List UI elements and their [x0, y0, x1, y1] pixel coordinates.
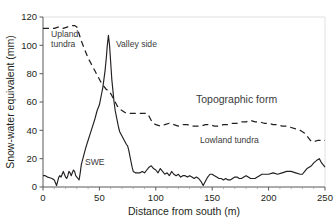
y-tick-label: 0 — [32, 181, 37, 192]
annotation-swe: SWE — [85, 157, 105, 167]
y-tick-label: 120 — [21, 11, 37, 22]
y-tick-label: 80 — [26, 68, 37, 79]
x-tick-label: 0 — [40, 192, 45, 203]
annotation-upland-tundra: Upland — [51, 29, 78, 39]
x-tick-label: 200 — [261, 192, 277, 203]
swe-topography-line-chart: 0 20 40 60 80 100 120 0 50 100 150 200 2… — [0, 0, 335, 221]
y-tick-label: 100 — [21, 40, 37, 51]
y-tick-label: 20 — [26, 153, 37, 164]
x-axis-title: Distance from south (m) — [128, 205, 240, 217]
annotation-topographic-form: Topographic form — [196, 93, 277, 105]
annotation-upland-tundra-line2: tundra — [51, 39, 76, 49]
annotation-lowland-tundra: Lowland tundra — [200, 135, 259, 145]
x-tick-label: 50 — [94, 192, 105, 203]
x-tick-label: 250 — [317, 192, 333, 203]
annotation-valley-side: Valley side — [116, 39, 157, 49]
y-axis-title: Snow-water equivalent (mm) — [4, 35, 16, 169]
chart-figure: 0 20 40 60 80 100 120 0 50 100 150 200 2… — [0, 0, 335, 221]
x-tick-label: 100 — [148, 192, 164, 203]
y-tick-label: 40 — [26, 125, 37, 136]
x-tick-label: 150 — [204, 192, 220, 203]
y-tick-label: 60 — [26, 96, 37, 107]
